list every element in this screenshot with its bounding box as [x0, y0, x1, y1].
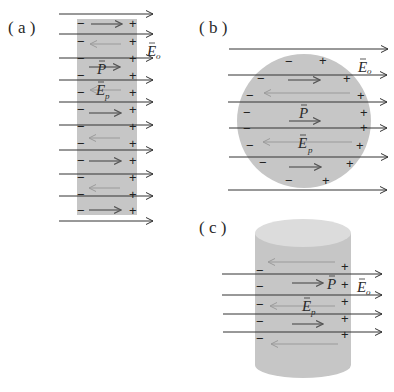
label-P: P [96, 61, 106, 77]
plus-sign: + [129, 16, 137, 31]
minus-sign: − [77, 153, 85, 168]
plus-sign: + [129, 51, 137, 66]
plus-sign: + [360, 120, 368, 135]
plus-sign: + [129, 119, 137, 134]
slab-dielectric [77, 19, 137, 215]
minus-sign: − [257, 71, 265, 86]
svg-text:E: E [95, 82, 105, 98]
minus-sign: − [285, 173, 293, 188]
label-P: P [326, 276, 336, 292]
dielectric-polarization-diagram: ( a ) [0, 0, 394, 392]
minus-sign: − [77, 136, 85, 151]
svg-text:P: P [96, 61, 106, 77]
svg-text:p: p [104, 91, 110, 101]
svg-text:E: E [297, 135, 307, 151]
plus-sign: + [129, 187, 137, 202]
panel-b-label: ( b ) [199, 18, 227, 37]
minus-sign: − [256, 297, 264, 312]
plus-sign: + [341, 311, 349, 326]
minus-sign: − [259, 155, 267, 170]
svg-text:E: E [146, 43, 156, 59]
plus-sign: + [341, 277, 349, 292]
minus-sign: − [77, 85, 85, 100]
plus-sign: + [129, 85, 137, 100]
plus-sign: + [356, 138, 364, 153]
label-P: P [298, 105, 308, 121]
plus-sign: + [357, 88, 365, 103]
minus-sign: − [77, 68, 85, 83]
panel-b: ( b ) − − − − − − − − [199, 18, 388, 190]
svg-text:P: P [326, 276, 336, 292]
minus-sign: − [256, 263, 264, 278]
minus-sign: − [77, 170, 85, 185]
svg-text:P: P [298, 105, 308, 121]
plus-sign: + [129, 136, 137, 151]
minus-sign: − [77, 51, 85, 66]
svg-text:E: E [301, 298, 311, 314]
plus-sign: + [129, 170, 137, 185]
minus-sign: − [77, 203, 85, 218]
svg-text:E: E [356, 279, 366, 295]
plus-sign: + [129, 102, 137, 117]
svg-text:o: o [156, 51, 161, 61]
svg-text:E: E [357, 59, 367, 75]
minus-sign: − [246, 138, 254, 153]
label-E-o: E o [357, 59, 372, 76]
positive-charges: + + + + + [341, 259, 349, 342]
panel-a: ( a ) [8, 14, 161, 221]
minus-sign: − [243, 105, 251, 120]
svg-text:p: p [310, 307, 316, 317]
plus-sign: + [343, 71, 351, 86]
minus-sign: − [77, 119, 85, 134]
plus-sign: + [360, 105, 368, 120]
plus-sign: + [346, 156, 354, 171]
minus-sign: − [256, 331, 264, 346]
minus-sign: − [77, 34, 85, 49]
plus-sign: + [129, 68, 137, 83]
label-E-o: E o [146, 43, 161, 61]
plus-sign: + [322, 173, 330, 188]
minus-sign: − [77, 16, 85, 31]
svg-text:o: o [366, 287, 371, 297]
minus-sign: − [77, 187, 85, 202]
label-E-o: E o [356, 279, 371, 297]
minus-sign: − [256, 314, 264, 329]
plus-sign: + [341, 294, 349, 309]
svg-text:o: o [367, 66, 372, 76]
panel-c: ( c ) − − − − − + + [199, 218, 382, 378]
negative-charges: − − − − − [256, 263, 264, 346]
plus-sign: + [341, 327, 349, 342]
minus-sign: − [243, 121, 251, 136]
plus-sign: + [129, 203, 137, 218]
minus-sign: − [246, 88, 254, 103]
minus-sign: − [77, 102, 85, 117]
plus-sign: + [341, 259, 349, 274]
panel-a-label: ( a ) [8, 18, 35, 37]
panel-c-label: ( c ) [199, 218, 226, 237]
minus-sign: − [256, 279, 264, 294]
minus-sign: − [285, 54, 293, 69]
plus-sign: + [129, 153, 137, 168]
plus-sign: + [319, 53, 327, 68]
plus-sign: + [129, 34, 137, 49]
svg-text:p: p [307, 145, 313, 155]
